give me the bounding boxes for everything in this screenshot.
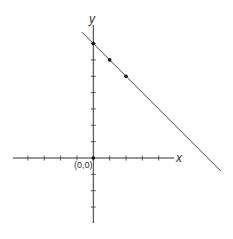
y-axis-label: y xyxy=(88,12,96,26)
origin-label: (0,0) xyxy=(74,160,93,170)
data-points xyxy=(92,42,128,160)
data-point xyxy=(108,58,112,62)
graph-line xyxy=(82,32,221,171)
coordinate-plane: x y (0,0) xyxy=(0,0,233,239)
x-axis-label: x xyxy=(175,151,183,165)
data-point xyxy=(124,74,128,78)
axes xyxy=(13,25,174,223)
data-point xyxy=(92,42,96,46)
